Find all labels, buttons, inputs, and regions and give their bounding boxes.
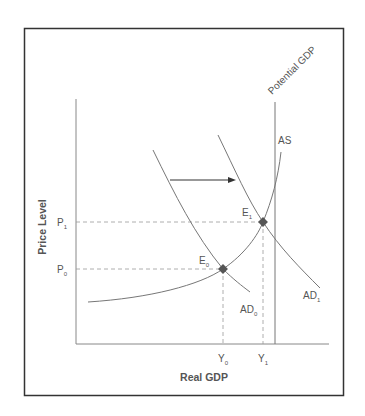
e0-label: E0 [199, 255, 210, 268]
dashed-guides [76, 222, 263, 344]
ad0-label: AD0 [240, 304, 258, 317]
figure-frame [25, 29, 344, 396]
y0-label: Y0 [218, 353, 229, 366]
as-curve [88, 152, 281, 302]
ad1-label: AD1 [303, 290, 321, 303]
ad-as-diagram: Potential GDP AS E1 E0 AD0 AD1 P1 P0 Y0 … [0, 0, 365, 416]
ad1-curve [218, 135, 320, 288]
arrow-head-icon [228, 177, 236, 183]
as-label: AS [278, 135, 292, 146]
p1-label: P1 [57, 217, 68, 230]
x-axis-title: Real GDP [180, 371, 228, 383]
e1-point [258, 217, 268, 227]
e1-label: E1 [242, 207, 253, 220]
p0-label: P0 [57, 264, 68, 277]
y-axis-title: Price Level [36, 199, 48, 255]
potential-gdp-label: Potential GDP [266, 44, 319, 97]
y1-label: Y1 [258, 353, 269, 366]
